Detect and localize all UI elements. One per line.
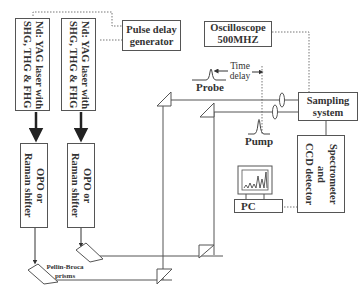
shifter-2-label: OPO or Raman shifter [69,153,93,217]
spectrometer-label: Spectrometer and CCD detector [303,143,339,205]
experimental-setup-diagram: Nd: YAG laser with SHG, THG & FHG Nd: YA… [0,0,362,298]
time-delay-label: Time delay [225,61,255,81]
pump-pulse-icon [248,120,270,135]
nd-yag-laser-1: Nd: YAG laser with SHG, THG & FHG [15,18,50,111]
pulse-delay-generator-label: Pulse delay generator [126,24,176,48]
lenses [273,93,285,119]
sampling-system-label: Sampling system [307,95,350,119]
laser-2-label: Nd: YAG laser with SHG, THG & FHG [67,21,91,109]
opo-raman-shifter-1: OPO or Raman shifter [20,143,48,228]
pc-monitor-icon [238,166,278,204]
pellin-broca-prisms-label: Pellin-Broca prisms [40,263,90,281]
opo-raman-shifter-2: OPO or Raman shifter [67,143,95,228]
shifter-1-label: OPO or Raman shifter [22,153,46,217]
pc-base: PC [234,199,283,213]
nd-yag-laser-2: Nd: YAG laser with SHG, THG & FHG [61,18,96,111]
oscilloscope-label: Oscilloscope 500MHZ [210,22,265,46]
mirrors [157,92,214,284]
pump-label: Pump [242,136,276,147]
laser-1-label: Nd: YAG laser with SHG, THG & FHG [21,21,45,109]
pc-label: PC [241,200,256,212]
probe-label: Probe [192,82,228,93]
pulse-delay-generator: Pulse delay generator [122,20,181,51]
sampling-system: Sampling system [298,92,358,121]
spectrometer-ccd-detector: Spectrometer and CCD detector [297,135,345,213]
oscilloscope: Oscilloscope 500MHZ [204,21,272,47]
